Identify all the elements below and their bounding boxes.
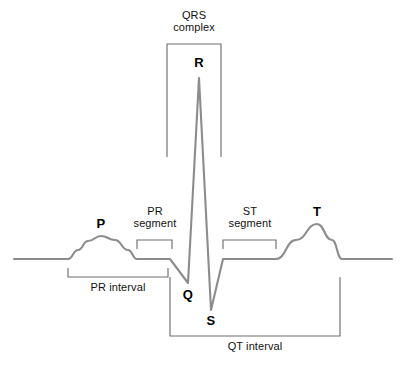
ecg-trace-layer [14, 78, 392, 310]
label-qt-interval: QT interval [228, 340, 283, 352]
label-wave-r: R [194, 56, 204, 71]
label-wave-s: S [207, 314, 216, 329]
ecg-diagram: QRS complexPR segmentST segmentPR interv… [0, 0, 406, 365]
label-wave-t: T [313, 205, 321, 220]
label-pr-interval: PR interval [91, 281, 146, 293]
label-wave-p: P [97, 217, 106, 232]
bracket-pr-interval [68, 268, 168, 277]
label-pr-segment: PR segment [134, 205, 177, 230]
ecg-trace [14, 78, 392, 310]
bracket-st-segment [223, 240, 276, 249]
label-qrs-complex: QRS complex [173, 9, 215, 34]
label-wave-q: Q [183, 288, 193, 303]
bracket-qt-interval [170, 277, 340, 336]
bracket-pr-segment [137, 240, 172, 249]
label-st-segment: ST segment [229, 205, 272, 230]
